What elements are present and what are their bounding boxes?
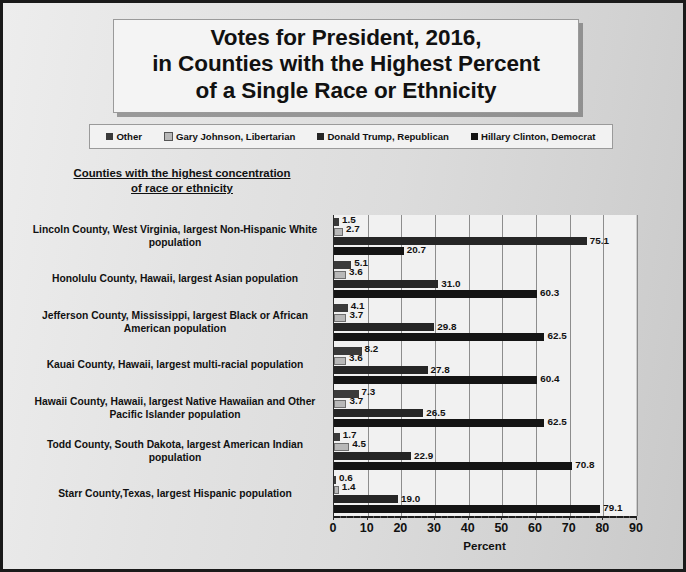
bar-value-label: 79.1	[603, 503, 622, 513]
x-tick-label: 90	[629, 521, 643, 535]
legend-item: Donald Trump, Republican	[317, 131, 449, 142]
bar-value-label: 75.1	[590, 236, 609, 246]
title-line-2: in Counties with the Highest Percent	[120, 51, 572, 77]
bar	[334, 237, 587, 245]
bar	[334, 247, 404, 255]
title-line-1: Votes for President, 2016,	[120, 25, 572, 51]
bar-value-label: 3.6	[349, 353, 363, 363]
x-axis-tick	[400, 516, 401, 520]
x-axis-minor-tick	[629, 516, 630, 518]
bar-value-label: 31.0	[441, 279, 460, 289]
chart-canvas: Votes for President, 2016, in Counties w…	[0, 0, 686, 572]
gridline	[637, 215, 638, 516]
category-label: Kauai County, Hawaii, largest multi-raci…	[21, 359, 333, 372]
x-axis-minor-tick	[346, 516, 347, 518]
chart-legend: OtherGary Johnson, LibertarianDonald Tru…	[89, 124, 613, 149]
subtitle-line-1: Counties with the highest concentration	[73, 167, 290, 179]
x-axis-tick	[367, 516, 368, 520]
x-axis-minor-tick	[461, 516, 462, 518]
legend-swatch-icon	[471, 133, 478, 140]
bar-value-label: 29.8	[437, 322, 456, 332]
x-axis-minor-tick	[495, 516, 496, 518]
plot-area: Lincoln County, West Virginia, largest N…	[21, 215, 671, 535]
legend-item: Other	[106, 131, 142, 142]
x-tick-label: 20	[393, 521, 407, 535]
bar-value-label: 4.5	[352, 439, 366, 449]
gridline	[502, 215, 503, 516]
category-label-row: Lincoln County, West Virginia, largest N…	[21, 221, 333, 253]
x-axis-minor-tick	[522, 516, 523, 518]
bar	[334, 323, 434, 331]
category-label: Jefferson County, Mississippi, largest B…	[21, 310, 333, 336]
x-axis-minor-tick	[596, 516, 597, 518]
category-label: Starr County,Texas, largest Hispanic pop…	[21, 488, 333, 501]
gridline	[536, 215, 537, 516]
x-axis-minor-tick	[589, 516, 590, 518]
x-axis-tick	[602, 516, 603, 520]
x-axis-minor-tick	[582, 516, 583, 518]
bar-value-label: 60.3	[540, 288, 559, 298]
bar	[334, 505, 600, 513]
x-axis-tick	[636, 516, 637, 520]
x-axis-minor-tick	[488, 516, 489, 518]
x-axis-minor-tick	[414, 516, 415, 518]
category-label-row: Kauai County, Hawaii, largest multi-raci…	[21, 350, 333, 382]
x-axis-minor-tick	[515, 516, 516, 518]
gridline	[603, 215, 604, 516]
x-axis-minor-tick	[387, 516, 388, 518]
bar-value-label: 62.5	[547, 331, 566, 341]
value-axis-area: 1.52.775.120.75.13.631.060.34.13.729.862…	[333, 215, 671, 529]
x-tick-label: 60	[528, 521, 542, 535]
bar	[334, 271, 346, 279]
x-axis-minor-tick	[555, 516, 556, 518]
bar	[334, 433, 340, 441]
gridline	[469, 215, 470, 516]
x-axis-minor-tick	[508, 516, 509, 518]
bar	[334, 476, 336, 484]
legend-label: Gary Johnson, Libertarian	[176, 131, 295, 142]
bar	[334, 462, 572, 470]
bar-value-label: 27.8	[431, 365, 450, 375]
x-tick-label: 80	[595, 521, 609, 535]
bar-value-label: 2.7	[346, 224, 360, 234]
bar	[334, 495, 398, 503]
category-label: Lincoln County, West Virginia, largest N…	[21, 224, 333, 250]
bar-value-label: 22.9	[414, 451, 433, 461]
x-axis-minor-tick	[447, 516, 448, 518]
bar-value-label: 60.4	[540, 374, 559, 384]
x-axis-tick	[569, 516, 570, 520]
bar	[334, 290, 537, 298]
bar-value-label: 3.7	[349, 310, 363, 320]
bar-value-label: 62.5	[547, 417, 566, 427]
bar-value-label: 3.7	[349, 396, 363, 406]
x-tick-label: 70	[562, 521, 576, 535]
x-axis-line	[333, 516, 636, 518]
x-axis-minor-tick	[542, 516, 543, 518]
bar	[334, 314, 346, 322]
x-axis-minor-tick	[575, 516, 576, 518]
plot-grid: 1.52.775.120.75.13.631.060.34.13.729.862…	[333, 215, 636, 516]
bar-value-label: 70.8	[575, 460, 594, 470]
x-tick-labels: 0102030405060708090	[333, 521, 636, 539]
bar	[334, 400, 346, 408]
bar-value-label: 3.6	[349, 267, 363, 277]
bar	[334, 443, 349, 451]
x-tick-label: 50	[494, 521, 508, 535]
bar	[334, 452, 411, 460]
bar-value-label: 19.0	[401, 494, 420, 504]
bar	[334, 419, 544, 427]
category-axis: Lincoln County, West Virginia, largest N…	[21, 215, 333, 529]
x-axis-minor-tick	[353, 516, 354, 518]
bar	[334, 304, 348, 312]
bar	[334, 218, 339, 226]
subtitle-line-2: of race or ethnicity	[131, 182, 233, 194]
x-axis-minor-tick	[454, 516, 455, 518]
x-tick-label: 30	[427, 521, 441, 535]
x-axis-tick	[468, 516, 469, 520]
legend-label: Hillary Clinton, Democrat	[481, 131, 596, 142]
category-label-row: Todd County, South Dakota, largest Ameri…	[21, 436, 333, 468]
x-axis-minor-tick	[616, 516, 617, 518]
legend-swatch-icon	[106, 133, 113, 140]
x-axis-minor-tick	[548, 516, 549, 518]
x-tick-label: 0	[330, 521, 337, 535]
